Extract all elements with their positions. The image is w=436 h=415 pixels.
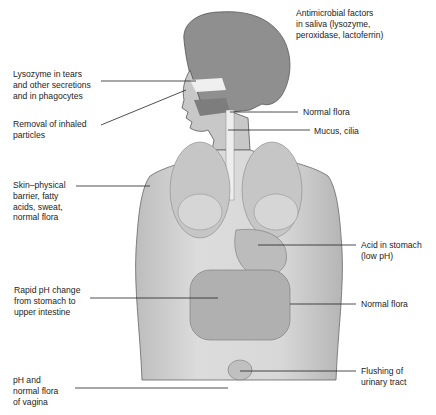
label-vagina: pH and normal flora of vagina	[13, 375, 58, 407]
label-inhaled-particles: Removal of inhaled particles	[13, 119, 87, 141]
torso	[136, 150, 343, 380]
label-urinary-tract: Flushing of urinary tract	[361, 366, 406, 388]
label-saliva: Antimicrobial factors in saliva (lysozym…	[296, 8, 383, 40]
bladder	[228, 360, 252, 380]
label-normal-flora-gut: Normal flora	[361, 299, 408, 310]
label-lysozyme: Lysozyme in tears and other secretions a…	[13, 69, 91, 101]
label-normal-flora-throat: Normal flora	[303, 107, 350, 118]
nasal-cavity	[190, 78, 226, 92]
label-mucus-cilia: Mucus, cilia	[314, 126, 359, 137]
intestines	[190, 270, 290, 340]
label-acid-stomach: Acid in stomach (low pH)	[361, 240, 422, 262]
label-skin: Skin–physical barrier, fatty acids, swea…	[13, 180, 66, 223]
label-ph-change: Rapid pH change from stomach to upper in…	[14, 285, 80, 317]
head-hair	[184, 12, 290, 112]
